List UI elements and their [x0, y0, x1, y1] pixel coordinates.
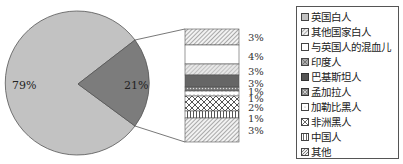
legend-label: 其他国家白人	[311, 24, 371, 39]
bar-label: 3%	[248, 66, 264, 77]
bar-label: 2%	[248, 102, 264, 113]
legend-item: 中国人	[301, 129, 398, 144]
swatch-icon	[301, 133, 309, 141]
legend-label: 英国白人	[311, 9, 351, 24]
bar-seg-african	[185, 96, 239, 111]
legend-item: 印度人	[301, 54, 398, 69]
swatch-icon	[301, 118, 309, 126]
bar-seg-bangladeshi	[185, 87, 239, 91]
swatch-icon	[301, 13, 309, 21]
pie: 79% 21%	[5, 11, 149, 155]
swatch-icon	[301, 103, 309, 111]
bar-label: 1%	[248, 113, 264, 124]
legend-item: 孟加拉人	[301, 84, 398, 99]
pie-label-21: 21%	[124, 79, 148, 92]
bar-label: 4%	[248, 51, 264, 62]
bar-labels: 3% 4% 3% 3% 1% 1% 2% 1% 3%	[248, 32, 264, 136]
bar-seg-pakistani	[185, 75, 239, 87]
bar-seg-other	[185, 118, 239, 142]
legend-label: 其他	[311, 144, 331, 159]
bar-seg-chinese	[185, 111, 239, 118]
bar-label: 3%	[248, 125, 264, 136]
legend-label: 孟加拉人	[311, 84, 351, 99]
legend-item: 其他	[301, 144, 398, 159]
legend-item: 英国白人	[301, 9, 398, 24]
swatch-icon	[301, 58, 309, 66]
connector-bottom	[135, 126, 185, 142]
legend-label: 非洲黑人	[311, 114, 351, 129]
legend-item: 加勒比黑人	[301, 99, 398, 114]
legend-label: 中国人	[311, 129, 341, 144]
bar-seg-other-white	[185, 29, 239, 45]
legend-item: 非洲黑人	[301, 114, 398, 129]
swatch-icon	[301, 148, 309, 156]
breakdown-bar	[185, 29, 239, 142]
legend: 英国白人 其他国家白人 与英国人的混血儿 印度人 巴基斯坦人 孟加拉人 加勒比黑…	[296, 6, 399, 159]
legend-label: 印度人	[311, 54, 341, 69]
bar-seg-caribbean	[185, 91, 239, 96]
connector-top	[135, 29, 185, 40]
swatch-icon	[301, 28, 309, 36]
legend-item: 与英国人的混血儿	[301, 39, 398, 54]
bar-seg-indian	[185, 64, 239, 75]
legend-label: 巴基斯坦人	[311, 69, 361, 84]
legend-item: 其他国家白人	[301, 24, 398, 39]
legend-label: 与英国人的混血儿	[311, 39, 391, 54]
legend-item: 巴基斯坦人	[301, 69, 398, 84]
swatch-icon	[301, 73, 309, 81]
bar-label: 3%	[248, 32, 264, 43]
legend-label: 加勒比黑人	[311, 99, 361, 114]
swatch-icon	[301, 43, 309, 51]
pie-label-79: 79%	[12, 79, 36, 92]
swatch-icon	[301, 88, 309, 96]
bar-seg-mixed	[185, 45, 239, 64]
